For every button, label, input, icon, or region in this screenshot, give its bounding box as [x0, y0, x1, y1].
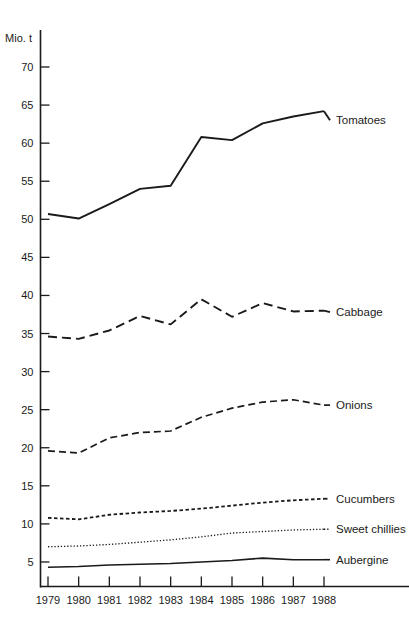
y-axis-unit-label: Mio. t	[5, 32, 32, 44]
y-axis-tick-label: 35	[21, 328, 33, 340]
x-axis-tick-label: 1987	[281, 594, 305, 606]
y-axis-tick-label: 15	[21, 480, 33, 492]
y-axis-tick-label: 5	[27, 556, 33, 568]
x-axis-tick-label: 1981	[97, 594, 121, 606]
y-axis-tick-label: 20	[21, 442, 33, 454]
series-label-sweet-chillies: Sweet chillies	[336, 523, 406, 535]
x-axis-tick-label: 1983	[158, 594, 182, 606]
series-label-onions: Onions	[336, 399, 373, 411]
series-line-tomatoes	[48, 111, 324, 218]
y-axis-tick-label: 10	[21, 518, 33, 530]
y-axis-tick-label: 55	[21, 175, 33, 187]
x-axis-tick-label: 1986	[250, 594, 274, 606]
y-axis-tick-label: 25	[21, 404, 33, 416]
x-axis-tick-label: 1984	[189, 594, 213, 606]
x-axis-tick-label: 1982	[128, 594, 152, 606]
series-label-aubergine: Aubergine	[336, 554, 388, 566]
series-line-sweet-chillies	[48, 529, 324, 547]
y-axis-tick-label: 60	[21, 137, 33, 149]
chart-canvas: Mio. t5101520253035404550556065701979198…	[0, 0, 409, 629]
line-chart-figure: Mio. t5101520253035404550556065701979198…	[0, 0, 409, 629]
series-line-cabbage	[48, 299, 324, 339]
x-axis-tick-label: 1988	[312, 594, 336, 606]
y-axis-tick-label: 50	[21, 213, 33, 225]
x-axis-tick-label: 1985	[220, 594, 244, 606]
y-axis-tick-label: 65	[21, 99, 33, 111]
series-group	[48, 111, 324, 567]
y-axis-tick-label: 45	[21, 251, 33, 263]
series-leader-line	[324, 111, 330, 120]
y-axis-tick-label: 30	[21, 366, 33, 378]
y-axis-tick-label: 70	[21, 61, 33, 73]
series-line-cucumbers	[48, 499, 324, 520]
series-line-aubergine	[48, 558, 324, 567]
x-axis-tick-label: 1979	[36, 594, 60, 606]
y-axis-tick-label: 40	[21, 289, 33, 301]
series-labels-group: TomatoesCabbageOnionsCucumbersSweet chil…	[324, 111, 406, 566]
series-line-onions	[48, 400, 324, 453]
series-leader-line	[324, 311, 330, 313]
series-label-tomatoes: Tomatoes	[336, 114, 386, 126]
series-label-cabbage: Cabbage	[336, 306, 383, 318]
series-label-cucumbers: Cucumbers	[336, 493, 395, 505]
x-axis-tick-label: 1980	[66, 594, 90, 606]
